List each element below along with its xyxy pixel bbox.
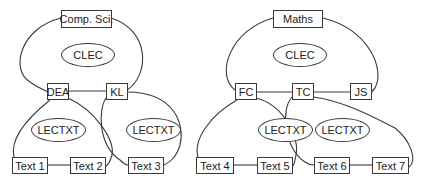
- text-box-5: Text 5: [257, 157, 293, 174]
- clec-oval-left: CLEC: [61, 43, 115, 67]
- node-box-fc: FC: [235, 83, 257, 100]
- text-box-4: Text 4: [196, 157, 234, 174]
- lectxt-oval-3: LECTXT: [258, 118, 313, 142]
- lectxt-oval-1: LECTXT: [31, 118, 86, 142]
- lectxt-oval-4: LECTXT: [315, 118, 370, 142]
- text-box-3: Text 3: [128, 157, 164, 174]
- lectxt-oval-2: LECTXT: [126, 118, 181, 142]
- text-box-6: Text 6: [314, 157, 350, 174]
- node-box-tc: TC: [292, 83, 314, 100]
- node-box-kl: KL: [106, 83, 128, 100]
- text-box-7: Text 7: [372, 157, 409, 174]
- root-box-comp-sci: Comp. Sci.: [61, 10, 112, 28]
- text-box-1: Text 1: [12, 157, 48, 174]
- node-box-js: JS: [350, 83, 372, 100]
- root-box-maths: Maths: [273, 10, 323, 28]
- text-box-2: Text 2: [70, 157, 106, 174]
- node-box-dea: DEA: [47, 83, 69, 100]
- clec-oval-right: CLEC: [273, 43, 327, 67]
- hierarchy-diagram: Comp. Sci. CLEC DEA KL LECTXT LECTXT Tex…: [0, 0, 426, 188]
